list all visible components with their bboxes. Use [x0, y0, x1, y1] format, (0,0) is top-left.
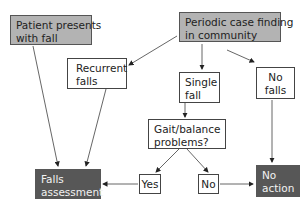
node-text: Recurrent: [76, 62, 121, 75]
arrow-gait-to-no: [187, 149, 208, 172]
node-text: Yes: [140, 178, 160, 191]
arrow-periodic-to-recurrent: [129, 36, 177, 65]
node-text: Patient presents: [16, 19, 86, 32]
node-text: falls: [76, 75, 121, 88]
node-text: No: [199, 178, 218, 191]
node-text: action: [262, 182, 294, 195]
node-no-falls: No falls: [256, 67, 295, 99]
node-text: No: [262, 71, 289, 84]
arrow-periodic-to-nofalls: [227, 50, 254, 62]
node-gait-balance-problems: Gait/balance problems?: [148, 119, 226, 149]
node-text: Gait/balance: [154, 123, 220, 136]
node-text: No: [262, 169, 294, 182]
node-patient-presents: Patient presents with fall: [10, 15, 92, 45]
node-yes: Yes: [139, 174, 161, 194]
node-recurrent-falls: Recurrent falls: [67, 58, 127, 89]
node-text: in community: [185, 29, 275, 42]
node-periodic-case-finding: Periodic case finding in community: [179, 12, 281, 42]
node-no-action: No action: [256, 165, 300, 197]
node-text: Single: [185, 76, 214, 89]
node-falls-assessment: Falls assessment: [35, 169, 101, 199]
arrow-recurrent-to-assessment: [86, 89, 106, 166]
node-text: Periodic case finding: [185, 16, 275, 29]
node-text: with fall: [16, 32, 86, 45]
node-text: fall: [185, 89, 214, 102]
node-text: problems?: [154, 136, 220, 149]
arrow-patient-to-assessment: [33, 46, 58, 166]
node-text: falls: [262, 84, 289, 97]
node-text: Falls: [41, 173, 95, 186]
arrow-gait-to-yes: [156, 149, 179, 172]
node-single-fall: Single fall: [179, 72, 220, 103]
node-no: No: [198, 174, 219, 194]
node-text: assessment: [41, 186, 95, 199]
